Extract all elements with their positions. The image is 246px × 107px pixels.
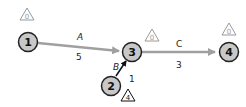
- node-4-slack-triangle: 0: [222, 23, 236, 36]
- svg-text:0: 0: [150, 34, 154, 42]
- svg-text:4: 4: [126, 94, 131, 102]
- edge-c: C 3: [142, 39, 215, 70]
- edge-a-activity-label: A: [76, 32, 83, 42]
- svg-text:0: 0: [227, 28, 231, 36]
- edge-c-activity-label: C: [176, 39, 182, 49]
- node-1: 1: [19, 33, 38, 52]
- edge-c-duration-label: 3: [176, 60, 182, 70]
- node-3: 3: [123, 43, 142, 62]
- node-3-slack-triangle: 0: [145, 29, 159, 42]
- edge-a: A 5: [38, 32, 119, 62]
- node-2: 2: [102, 77, 121, 96]
- node-4: 4: [220, 43, 239, 62]
- edge-b-duration-label: 1: [129, 74, 135, 84]
- svg-text:3: 3: [128, 46, 136, 59]
- svg-text:1: 1: [24, 36, 32, 49]
- svg-text:4: 4: [225, 46, 233, 59]
- network-diagram: A 5 C 3 B 1 1 0 3 0 4 0 2: [0, 0, 246, 107]
- svg-text:0: 0: [25, 13, 29, 21]
- node-2-slack-triangle: 4: [121, 89, 135, 102]
- edge-b-activity-label: B: [113, 62, 119, 72]
- node-1-slack-triangle: 0: [20, 8, 34, 21]
- edge-a-duration-label: 5: [76, 52, 82, 62]
- svg-text:2: 2: [107, 80, 115, 93]
